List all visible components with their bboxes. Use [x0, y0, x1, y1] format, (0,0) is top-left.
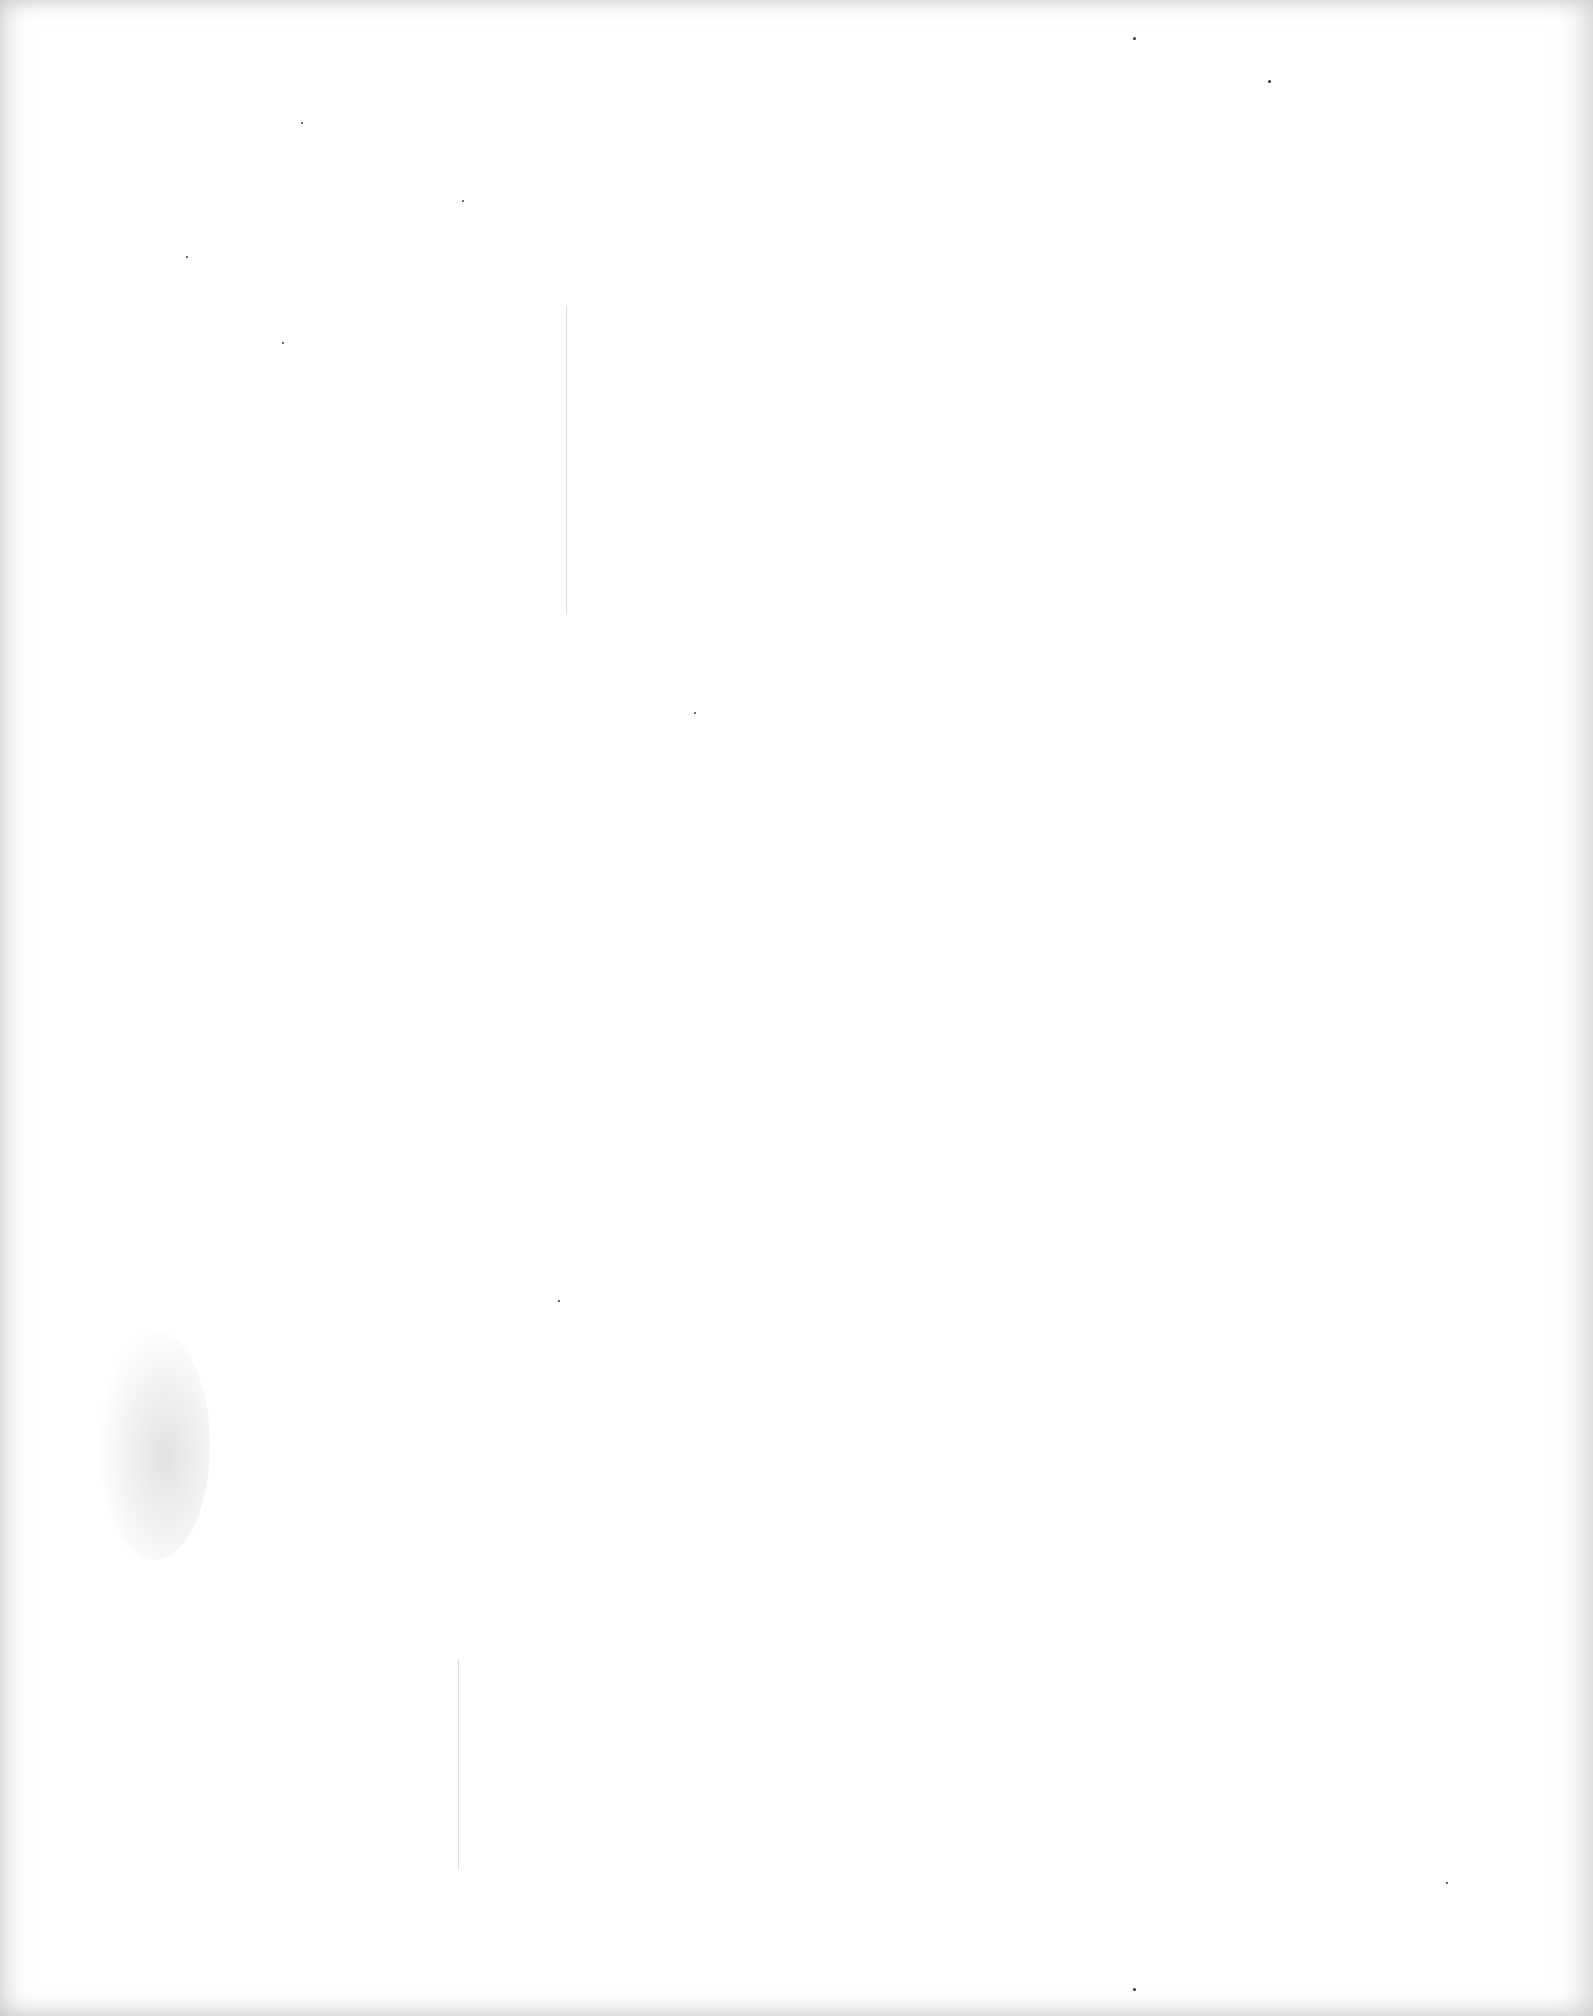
- dust-speck: [282, 342, 284, 344]
- dust-speck: [186, 256, 188, 258]
- dust-speck: [1446, 1882, 1448, 1884]
- scan-line: [566, 305, 567, 615]
- dust-speck: [1268, 80, 1271, 83]
- dust-speck: [694, 712, 696, 714]
- dust-speck: [558, 1300, 560, 1302]
- dust-speck: [301, 122, 303, 124]
- scan-line: [458, 1660, 459, 1870]
- dust-speck: [1133, 1988, 1136, 1991]
- blank-scanned-page: [0, 0, 1593, 2016]
- dust-speck: [462, 200, 464, 202]
- dust-speck: [1133, 37, 1136, 40]
- scan-edge-shadow: [0, 0, 1593, 2016]
- scan-smudge: [100, 1330, 210, 1560]
